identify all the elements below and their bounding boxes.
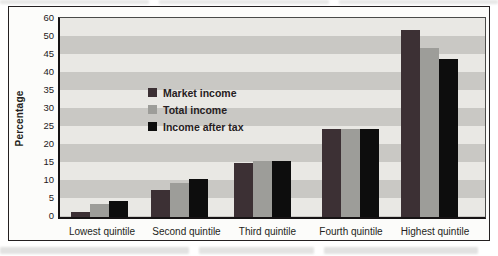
bar-income-after-tax-highest-quintile (439, 59, 458, 217)
bar-group-highest-quintile (401, 30, 458, 217)
bar-total-income-lowest-quintile (90, 204, 109, 217)
cropped-text-smear-top (0, 0, 498, 4)
legend-swatch-icon (148, 105, 157, 114)
legend-item-total-income: Total income (148, 101, 244, 118)
legend: Market incomeTotal incomeIncome after ta… (148, 84, 244, 135)
legend-item-market-income: Market income (148, 84, 244, 101)
bar-market-income-second-quintile (151, 190, 170, 217)
legend-label: Market income (163, 87, 237, 99)
bar-income-after-tax-third-quintile (272, 161, 291, 217)
bar-group-lowest-quintile (71, 201, 128, 217)
legend-swatch-icon (148, 88, 157, 97)
bar-group-third-quintile (234, 161, 291, 217)
y-tick-label-60: 60 (9, 12, 57, 23)
plot-area: Market incomeTotal incomeIncome after ta… (58, 17, 486, 219)
y-tick-label-35: 35 (9, 84, 57, 95)
y-tick-label-30: 30 (9, 102, 57, 113)
legend-swatch-icon (148, 122, 157, 131)
bar-income-after-tax-lowest-quintile (109, 201, 128, 217)
legend-label: Total income (163, 104, 227, 116)
chart-figure: Percentage 6050454035302520151050 Market… (8, 6, 490, 241)
bar-total-income-second-quintile (170, 183, 189, 217)
bar-market-income-fourth-quintile (322, 129, 341, 217)
y-tick-label-25: 25 (9, 120, 57, 131)
y-tick-label-5: 5 (9, 192, 57, 203)
y-tick-label-45: 45 (9, 48, 57, 59)
cropped-caption-smear-bottom (0, 247, 498, 254)
bar-income-after-tax-second-quintile (189, 179, 208, 217)
y-tick-label-15: 15 (9, 156, 57, 167)
bar-total-income-fourth-quintile (341, 129, 360, 217)
bar-group-fourth-quintile (322, 129, 379, 217)
bar-market-income-third-quintile (234, 163, 253, 217)
bar-market-income-highest-quintile (401, 30, 420, 217)
bar-total-income-third-quintile (253, 161, 272, 217)
legend-label: Income after tax (163, 121, 244, 133)
bar-income-after-tax-fourth-quintile (360, 129, 379, 217)
bar-market-income-lowest-quintile (71, 212, 90, 217)
y-tick-label-50: 50 (9, 30, 57, 41)
y-tick-label-0: 0 (9, 210, 57, 221)
y-tick-label-40: 40 (9, 66, 57, 77)
bar-total-income-highest-quintile (420, 48, 439, 217)
bar-group-second-quintile (151, 179, 208, 217)
y-tick-label-20: 20 (9, 138, 57, 149)
y-tick-label-10: 10 (9, 174, 57, 185)
legend-item-income-after-tax: Income after tax (148, 118, 244, 135)
x-category-label-highest-quintile: Highest quintile (380, 226, 490, 237)
